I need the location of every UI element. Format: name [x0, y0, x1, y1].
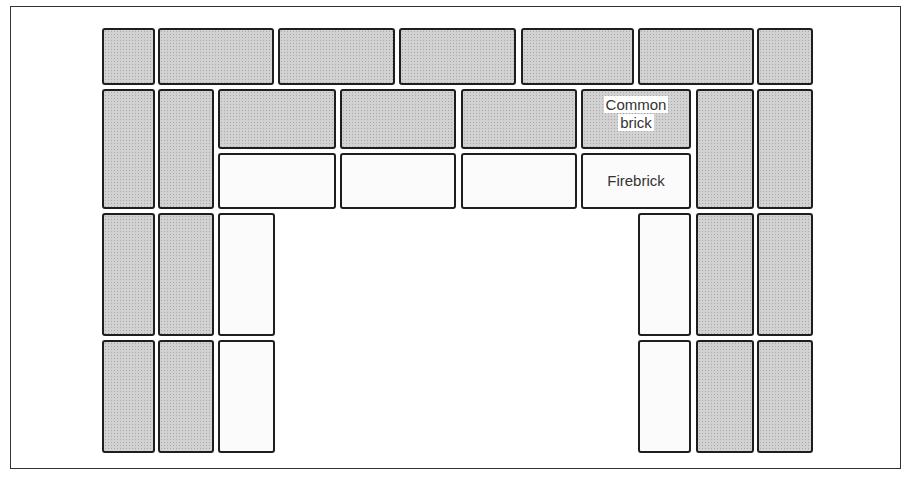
firebrick-r4-left-fire	[218, 340, 275, 453]
common-brick-top-1	[102, 28, 155, 85]
common-brick-r3-right-1	[696, 213, 754, 336]
common-brick-r3-left-2	[158, 213, 214, 336]
firebrick-lintel-fire-2	[340, 153, 456, 209]
firebrick-lintel-fire-3	[461, 153, 577, 209]
common-brick-top-2	[158, 28, 274, 85]
common-brick-r4-left-2	[158, 340, 214, 453]
firebrick-label: Firebrick	[584, 172, 688, 190]
common-brick-lintel-common-3	[461, 89, 577, 149]
common-brick-lintel-common-1	[218, 89, 336, 149]
common-brick-top-6	[638, 28, 754, 85]
common-brick-top-5	[521, 28, 634, 85]
common-brick-r3-left-1	[102, 213, 155, 336]
firebrick-r3-right-fire	[638, 213, 691, 336]
common-brick-r4-left-1	[102, 340, 155, 453]
common-brick-r2-right-1	[696, 89, 754, 209]
brick-layout	[0, 0, 910, 488]
common-brick-r2-left-1	[102, 89, 155, 209]
firebrick-r4-right-fire	[638, 340, 691, 453]
firebrick-r3-left-fire	[218, 213, 275, 336]
common-brick-label: Common brick	[584, 96, 688, 132]
common-brick-top-4	[399, 28, 516, 85]
common-brick-r2-right-2	[757, 89, 813, 209]
common-brick-r2-left-2	[158, 89, 214, 209]
firebrick-lintel-fire-1	[218, 153, 336, 209]
common-brick-r4-right-1	[696, 340, 754, 453]
common-brick-top-3	[278, 28, 395, 85]
common-brick-lintel-common-2	[340, 89, 456, 149]
common-brick-r3-right-2	[757, 213, 813, 336]
common-brick-top-7	[757, 28, 813, 85]
common-brick-r4-right-2	[757, 340, 813, 453]
common-brick-label-line1: Common	[604, 96, 669, 113]
common-brick-label-line2: brick	[618, 114, 654, 131]
